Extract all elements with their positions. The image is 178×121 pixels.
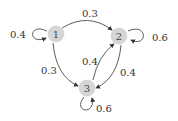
diagram-canvas: 0.3 0.3 0.4 0.4 0.4 0.6 0.6 1 2 3	[0, 0, 178, 121]
node-label-3: 3	[84, 83, 90, 94]
node-label-1: 1	[53, 29, 59, 40]
self-loop-1	[33, 29, 47, 40]
node-1: 1	[48, 26, 64, 42]
markov-chain-diagram: 0.3 0.3 0.4 0.4 0.4 0.6 0.6 1 2 3	[0, 0, 178, 121]
edge-label-2-2: 0.6	[152, 32, 168, 43]
edge-label-3-3: 0.6	[96, 103, 112, 114]
edge-2-3	[96, 45, 121, 88]
self-loop-2	[128, 29, 143, 41]
edge-label-1-2: 0.3	[82, 8, 98, 19]
node-2: 2	[111, 28, 127, 44]
edge-label-3-2: 0.4	[82, 56, 98, 67]
edge-label-2-3: 0.4	[120, 67, 136, 78]
self-loop-3	[81, 97, 93, 110]
edge-label-1-3: 0.3	[41, 65, 57, 76]
node-label-2: 2	[116, 31, 122, 42]
edge-1-2	[62, 20, 112, 30]
edge-label-1-1: 0.4	[10, 29, 26, 40]
node-3: 3	[79, 80, 95, 96]
